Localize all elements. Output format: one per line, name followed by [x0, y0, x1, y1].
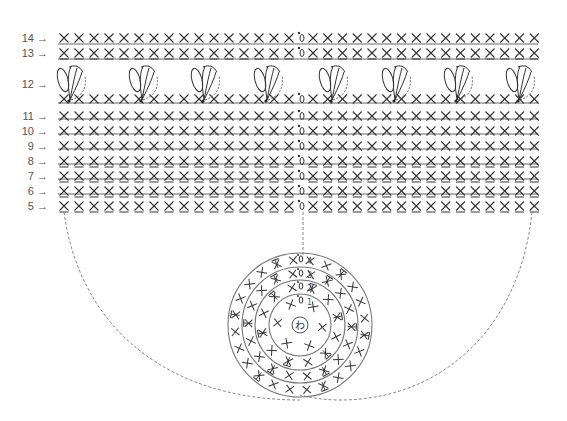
row-label: 6 →	[28, 185, 48, 197]
round-number: 4	[307, 257, 312, 266]
sc-stitch-icon	[360, 314, 368, 322]
sc-stitch-icon	[285, 385, 294, 394]
sc-stitch-icon	[256, 267, 267, 278]
magic-ring-label: わ	[295, 320, 305, 331]
increase-stitch-icon	[253, 370, 264, 381]
sc-stitch-icon	[244, 279, 255, 290]
increase-stitch-icon	[322, 275, 333, 286]
increase-stitch-icon	[320, 348, 331, 359]
sc-stitch-icon	[303, 358, 312, 367]
sc-stitch-icon	[242, 358, 253, 369]
cluster-stitch-icon	[442, 66, 472, 103]
increase-stitch-icon	[230, 310, 240, 319]
crochet-diagram: 14 →13 →12 →11 →10 →9 →8 →7 →6 →5 → わ123…	[0, 0, 567, 421]
sc-stitch-icon	[347, 281, 358, 292]
cluster-stitch-icon	[317, 66, 347, 103]
increase-stitch-icon	[360, 331, 370, 340]
increase-stitch-icon	[333, 312, 343, 321]
sc-stitch-icon	[254, 351, 265, 362]
row-label: 9 →	[28, 140, 48, 152]
row-7	[60, 170, 539, 182]
dashed-connectors	[64, 212, 532, 400]
increase-stitch-icon	[269, 291, 280, 302]
round-marker: 3	[297, 268, 312, 280]
sc-stitch-icon	[343, 339, 353, 349]
round-marker: 4	[297, 254, 312, 266]
increase-stitch-icon	[319, 365, 330, 376]
row-labels: 14 →13 →12 →11 →10 →9 →8 →7 →6 →5 →	[22, 32, 48, 212]
row-label: 7 →	[28, 170, 48, 182]
round-number: 2	[307, 284, 312, 293]
sc-stitch-icon	[289, 256, 297, 264]
row-5	[60, 200, 539, 212]
sc-stitch-icon	[335, 288, 346, 299]
sc-stitch-icon	[333, 372, 344, 383]
sc-stitch-icon	[289, 270, 298, 279]
cluster-stitch-icon	[189, 66, 219, 103]
row-label: 11 →	[23, 110, 48, 122]
sc-stitch-icon	[321, 261, 331, 271]
increase-stitch-icon	[271, 258, 281, 269]
increase-stitch-icon	[270, 274, 281, 285]
sc-stitch-icon	[345, 361, 356, 372]
sc-stitch-icon	[303, 385, 311, 393]
row-label: 5 →	[28, 200, 48, 212]
left-dashed-curve	[64, 212, 300, 400]
row-8	[60, 155, 539, 167]
sc-stitch-icon	[266, 345, 277, 356]
row-13	[60, 47, 539, 59]
increase-stitch-icon	[348, 323, 357, 331]
increase-stitch-icon	[336, 268, 347, 279]
sc-stitch-icon	[281, 338, 292, 349]
row-label: 14 →	[22, 32, 48, 44]
round-chart: わ1234	[228, 253, 372, 397]
row-6	[60, 185, 539, 197]
round-number: 1	[307, 298, 312, 307]
sc-stitch-icon	[288, 283, 297, 292]
sc-stitch-icon	[256, 285, 267, 296]
sc-stitch-icon	[246, 336, 256, 346]
row-14	[60, 32, 539, 43]
increase-stitch-icon	[257, 328, 267, 337]
sc-stitch-icon	[269, 379, 279, 389]
cluster-stitch-icon	[127, 66, 157, 103]
increase-stitch-icon	[318, 381, 328, 392]
round-marker: 1	[297, 295, 312, 307]
row-label: 10 →	[22, 125, 48, 137]
sc-stitch-icon	[323, 294, 334, 305]
sc-stitch-icon	[247, 301, 257, 311]
sc-stitch-icon	[231, 328, 239, 336]
increase-stitch-icon	[267, 363, 278, 374]
sc-stitch-icon	[286, 299, 296, 309]
sc-stitch-icon	[318, 323, 326, 331]
sc-stitch-icon	[333, 354, 344, 365]
sc-stitch-icon	[304, 341, 314, 351]
row-label: 8 →	[28, 155, 48, 167]
increase-stitch-icon	[283, 356, 293, 367]
sc-stitch-icon	[356, 297, 366, 307]
increase-stitch-icon	[244, 319, 253, 327]
sc-stitch-icon	[236, 294, 246, 304]
sc-stitch-icon	[285, 371, 294, 380]
sc-stitch-icon	[344, 304, 354, 314]
round-number: 3	[307, 271, 312, 280]
row-label: 12 →	[22, 78, 48, 90]
sc-stitch-icon	[259, 308, 269, 318]
sc-stitch-icon	[273, 318, 281, 326]
sc-stitch-icon	[303, 372, 312, 381]
cluster-stitch-icon	[504, 66, 534, 103]
sc-stitch-icon	[331, 332, 341, 342]
row-label: 13 →	[22, 47, 48, 59]
sc-stitch-icon	[234, 343, 244, 353]
sc-stitch-icon	[354, 346, 364, 356]
